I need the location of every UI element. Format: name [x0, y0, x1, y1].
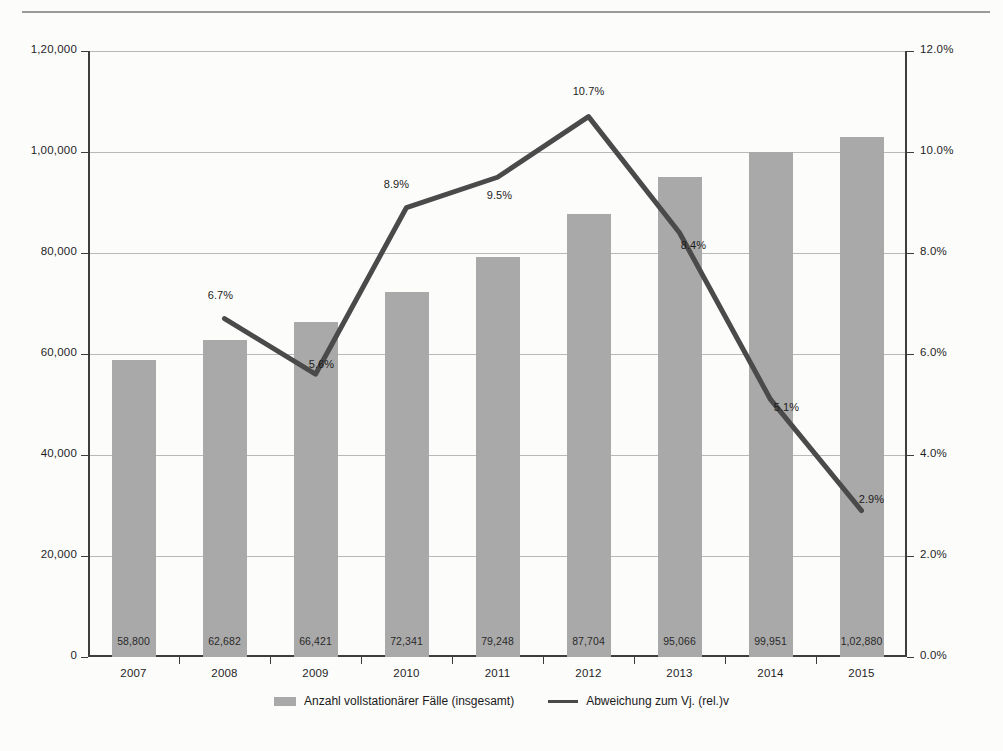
x-axis-tick	[452, 657, 453, 664]
left-axis-tick	[81, 556, 88, 557]
legend-label-line: Abweichung zum Vj. (rel.)v	[586, 694, 729, 708]
line-value-label: 2.9%	[842, 493, 902, 505]
right-axis-label: 4.0%	[920, 447, 947, 459]
right-axis-label: 8.0%	[920, 245, 947, 257]
plot-area: 020,00040,00060,00080,0001,00,0001,20,00…	[88, 51, 907, 657]
right-axis-label: 10.0%	[920, 144, 954, 156]
line-series	[88, 51, 907, 657]
x-axis-label: 2015	[827, 667, 897, 679]
bar-swatch-icon	[274, 697, 296, 706]
left-axis-tick	[81, 152, 88, 153]
legend-label-bars: Anzahl vollstationärer Fälle (insgesamt)	[304, 694, 514, 708]
right-axis-label: 2.0%	[920, 548, 947, 560]
left-axis-label: 20,000	[41, 548, 77, 560]
x-axis-label: 2009	[281, 667, 351, 679]
line-path	[225, 117, 862, 511]
left-axis-label: 1,20,000	[31, 43, 77, 55]
x-axis-label: 2013	[645, 667, 715, 679]
right-axis-tick	[907, 657, 914, 658]
chart-legend: Anzahl vollstationärer Fälle (insgesamt)…	[0, 694, 1003, 708]
left-axis-tick	[81, 354, 88, 355]
right-axis-tick	[907, 556, 914, 557]
line-value-label: 8.4%	[664, 239, 724, 251]
left-axis-tick	[81, 657, 88, 658]
line-value-label: 9.5%	[470, 189, 530, 201]
x-axis-label: 2010	[372, 667, 442, 679]
left-axis-label: 60,000	[41, 346, 77, 358]
left-axis-label: 0	[70, 649, 77, 661]
line-value-label: 10.7%	[559, 85, 619, 97]
x-axis-label: 2007	[99, 667, 169, 679]
x-axis-label: 2014	[736, 667, 806, 679]
x-axis-tick	[634, 657, 635, 664]
x-axis-label: 2008	[190, 667, 260, 679]
x-axis-tick	[179, 657, 180, 664]
legend-item-bars[interactable]: Anzahl vollstationärer Fälle (insgesamt)	[274, 694, 514, 708]
line-value-label: 8.9%	[367, 178, 427, 190]
left-axis-tick	[81, 51, 88, 52]
x-axis-tick	[725, 657, 726, 664]
line-value-label: 5.1%	[757, 401, 817, 413]
x-axis-tick	[270, 657, 271, 664]
legend-item-line[interactable]: Abweichung zum Vj. (rel.)v	[548, 694, 729, 708]
line-value-label: 5.6%	[292, 358, 352, 370]
left-axis-label: 80,000	[41, 245, 77, 257]
right-axis-tick	[907, 354, 914, 355]
chart-figure: 020,00040,00060,00080,0001,00,0001,20,00…	[0, 0, 1003, 751]
right-axis-tick	[907, 455, 914, 456]
x-axis-tick	[361, 657, 362, 664]
left-axis-tick	[81, 455, 88, 456]
right-axis-tick	[907, 253, 914, 254]
left-axis-label: 40,000	[41, 447, 77, 459]
x-axis-tick	[543, 657, 544, 664]
left-axis-tick	[81, 253, 88, 254]
x-axis-label: 2012	[554, 667, 624, 679]
x-axis-label: 2011	[463, 667, 533, 679]
right-axis-tick	[907, 51, 914, 52]
right-axis-label: 6.0%	[920, 346, 947, 358]
right-axis-label: 12.0%	[920, 43, 954, 55]
right-axis-tick	[907, 152, 914, 153]
x-axis-tick	[816, 657, 817, 664]
line-swatch-icon	[548, 700, 578, 703]
right-axis-label: 0.0%	[920, 649, 947, 661]
left-axis-label: 1,00,000	[31, 144, 77, 156]
line-value-label: 6.7%	[191, 289, 251, 301]
